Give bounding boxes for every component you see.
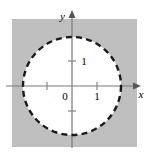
math-figure-region-outside-circle: y x 0 1 1: [0, 0, 149, 156]
x-tick-label-one: 1: [94, 90, 100, 102]
y-tick-label-one: 1: [81, 55, 87, 67]
origin-label: 0: [62, 90, 68, 102]
x-axis-label: x: [138, 88, 144, 100]
figure-canvas: y x 0 1 1: [0, 0, 149, 156]
arrow-up-icon: [69, 10, 76, 18]
y-axis-label: y: [59, 10, 65, 22]
